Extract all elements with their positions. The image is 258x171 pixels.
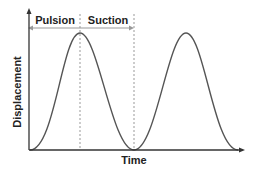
x-axis-arrow-icon [239, 148, 245, 153]
phase-label-pulsion: Pulsion [35, 14, 75, 26]
displacement-time-diagram: Pulsion Suction Time Displacement [0, 0, 258, 171]
x-axis-label: Time [121, 154, 146, 166]
phase-span-arrow-right-icon [129, 26, 134, 31]
y-axis-label: Displacement [11, 56, 23, 128]
y-axis-arrow-icon [27, 8, 32, 14]
phase-label-suction: Suction [88, 14, 129, 26]
